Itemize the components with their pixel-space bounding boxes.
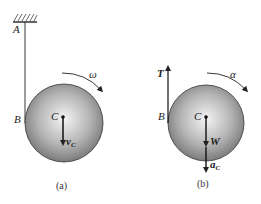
label-b-point-b: B — [158, 110, 165, 122]
figure-a: A B C ω vC (a) — [12, 14, 103, 192]
label-weight: W — [210, 135, 221, 147]
label-omega: ω — [89, 68, 97, 80]
label-acceleration: aC — [210, 158, 221, 172]
figure-b: T B C α W aC (b) — [157, 67, 246, 190]
figure-canvas: A B C ω vC (a) T B C α W aC (b) — [0, 0, 261, 204]
label-tension: T — [157, 67, 165, 79]
label-b-point: B — [14, 113, 21, 125]
label-a-point: A — [12, 23, 20, 35]
label-c-point: C — [51, 110, 59, 122]
disk-a — [25, 84, 103, 162]
ceiling-support-icon — [13, 14, 37, 22]
label-c-point-b: C — [194, 110, 202, 122]
caption-a: (a) — [56, 180, 67, 192]
caption-b: (b) — [197, 178, 209, 190]
label-alpha: α — [230, 68, 236, 80]
